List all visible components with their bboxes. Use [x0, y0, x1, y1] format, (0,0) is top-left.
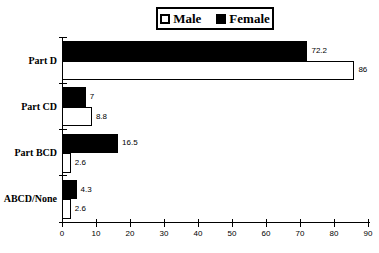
x-axis-tick-label: 70: [290, 229, 310, 238]
bar-female: [62, 134, 118, 154]
bar-chart-figure: Male Female 0102030405060708090Part D72.…: [0, 0, 379, 253]
x-axis-tick: [130, 219, 131, 227]
plot-area: 0102030405060708090Part D72.286Part CD78…: [0, 0, 379, 253]
x-axis-tick: [96, 219, 97, 227]
x-axis-tick: [62, 219, 63, 227]
bar-male: [62, 107, 92, 127]
x-axis-tick-label: 80: [324, 229, 344, 238]
x-axis-tick: [266, 219, 267, 227]
x-axis-tick: [334, 219, 335, 227]
x-axis-tick-label: 40: [188, 229, 208, 238]
x-axis-tick-label: 20: [120, 229, 140, 238]
value-label: 7: [90, 92, 94, 102]
category-label: ABCD/None: [4, 192, 57, 205]
x-axis-tick: [164, 219, 165, 227]
category-label: Part CD: [21, 100, 57, 113]
x-axis-tick: [368, 219, 369, 227]
value-label: 2.6: [75, 158, 86, 168]
x-axis-tick: [198, 219, 199, 227]
x-axis-tick-label: 10: [86, 229, 106, 238]
category-label: Part D: [28, 54, 57, 67]
y-axis-tick: [59, 175, 67, 176]
y-axis-tick: [59, 37, 67, 38]
bar-male: [62, 61, 354, 81]
x-axis-line: [62, 222, 370, 223]
bar-male: [62, 199, 71, 219]
x-axis-tick: [232, 219, 233, 227]
value-label: 8.8: [96, 112, 107, 122]
bar-female: [62, 180, 77, 200]
category-label: Part BCD: [15, 146, 58, 159]
bar-male: [62, 153, 71, 173]
x-axis-tick-label: 90: [358, 229, 378, 238]
x-axis-tick-label: 0: [52, 229, 72, 238]
x-axis-tick-label: 60: [256, 229, 276, 238]
x-axis-tick-label: 30: [154, 229, 174, 238]
y-axis-tick: [59, 83, 67, 84]
value-label: 2.6: [75, 204, 86, 214]
bar-female: [62, 87, 86, 107]
bar-female: [62, 41, 307, 61]
value-label: 72.2: [311, 46, 327, 56]
x-axis-tick: [300, 219, 301, 227]
x-axis-tick-label: 50: [222, 229, 242, 238]
value-label: 4.3: [81, 185, 92, 195]
value-label: 86: [358, 65, 367, 75]
value-label: 16.5: [122, 138, 138, 148]
y-axis-tick: [59, 222, 67, 223]
y-axis-tick: [59, 129, 67, 130]
